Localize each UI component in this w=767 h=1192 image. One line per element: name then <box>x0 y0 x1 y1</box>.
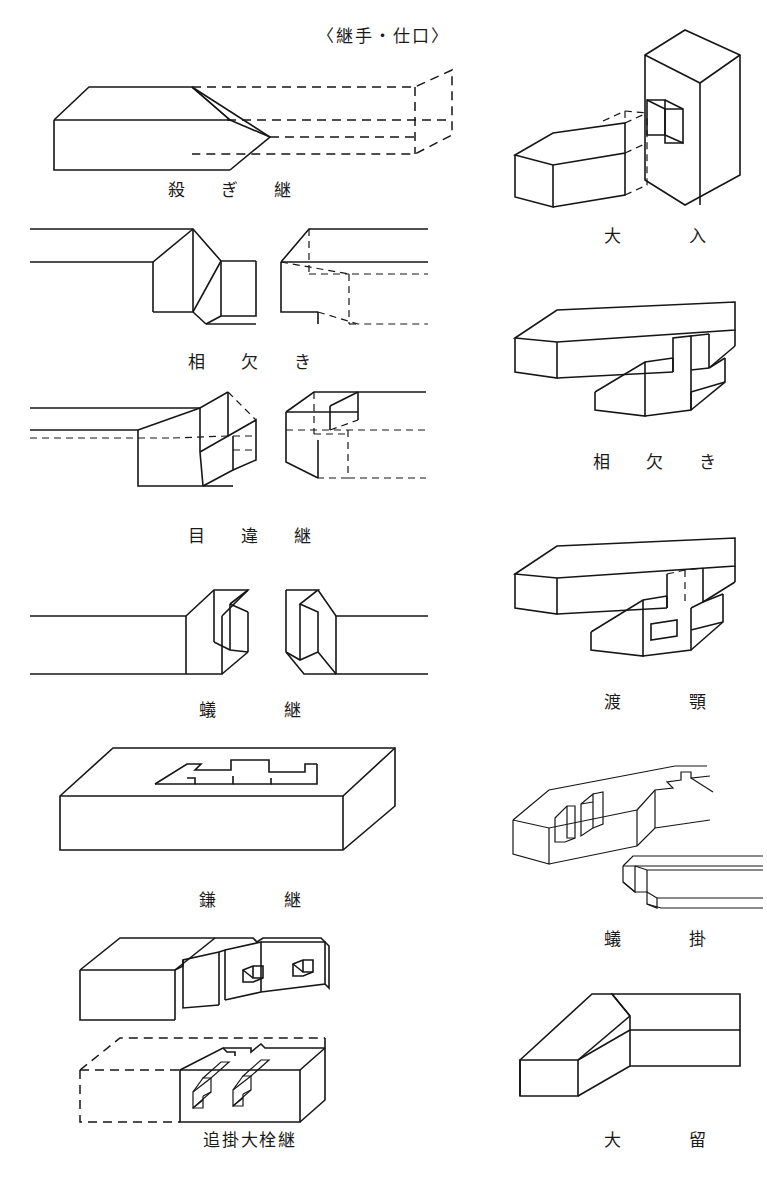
caption-ai-kaki-splice: 相 欠 き <box>150 348 350 373</box>
caption-ai-kaki-cross: 相 欠 き <box>565 448 745 473</box>
caption-kama-tsugi: 鎌 継 <box>150 886 350 911</box>
caption-watari-ago: 渡 顎 <box>565 688 745 713</box>
caption-ari-kake: 蟻 掛 <box>565 925 745 950</box>
figure-odome <box>500 978 750 1113</box>
figure-oikake-daisen-lower <box>75 1030 375 1130</box>
figure-kama-tsugi <box>55 738 415 873</box>
figure-ari-kake-tongue <box>605 848 765 920</box>
caption-oikake-daisen-tsugi: 追掛大栓継 <box>150 1126 350 1151</box>
caption-mechigai-tsugi: 目 違 継 <box>150 522 350 547</box>
figure-oire <box>495 25 745 210</box>
figure-ai-kaki-splice <box>18 216 438 326</box>
figure-watari-ago <box>495 512 745 677</box>
caption-ari-tsugi: 蟻 継 <box>150 696 350 721</box>
caption-oire: 大 入 <box>565 222 745 247</box>
figure-ari-tsugi <box>18 556 438 681</box>
caption-sogi-tsugi: 殺 ぎ 継 <box>130 176 330 201</box>
figure-ai-kaki-cross <box>495 280 745 435</box>
joinery-reference-page: 〈継手・仕口〉 殺 ぎ 継 <box>0 0 767 1192</box>
caption-odome: 大 留 <box>565 1126 745 1151</box>
figure-mechigai-tsugi <box>18 390 438 500</box>
figure-sogi-tsugi <box>40 62 460 172</box>
figure-oikake-daisen-upper <box>75 930 375 1040</box>
